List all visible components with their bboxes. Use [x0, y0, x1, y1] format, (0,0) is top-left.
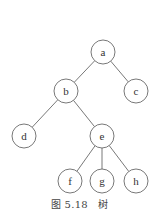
- figure-caption: 图 5.18树: [0, 196, 159, 211]
- node-label: b: [63, 85, 69, 97]
- node-label: h: [133, 175, 139, 187]
- tree-node-d: d: [12, 124, 36, 148]
- node-label: d: [21, 130, 27, 142]
- edge-a-c: [111, 61, 128, 82]
- edge-b-d: [32, 100, 58, 127]
- tree-edges: [32, 61, 129, 172]
- tree-node-h: h: [124, 169, 148, 193]
- node-label: f: [68, 175, 72, 187]
- tree-diagram: abcdefgh: [0, 0, 159, 223]
- tree-node-c: c: [124, 79, 148, 103]
- edge-e-h: [109, 146, 129, 172]
- figure-caption-title: 树: [98, 199, 108, 210]
- node-label: e: [100, 130, 105, 142]
- tree-node-a: a: [91, 40, 115, 64]
- edge-a-b: [74, 61, 94, 83]
- node-label: c: [134, 85, 139, 97]
- tree-node-f: f: [58, 169, 82, 193]
- edge-e-f: [77, 146, 95, 171]
- tree-node-g: g: [90, 169, 114, 193]
- figure-caption-number: 图 5.18: [51, 199, 88, 210]
- node-label: g: [99, 175, 105, 187]
- tree-node-b: b: [54, 79, 78, 103]
- edge-b-e: [73, 100, 94, 126]
- node-label: a: [101, 46, 106, 58]
- tree-node-e: e: [90, 124, 114, 148]
